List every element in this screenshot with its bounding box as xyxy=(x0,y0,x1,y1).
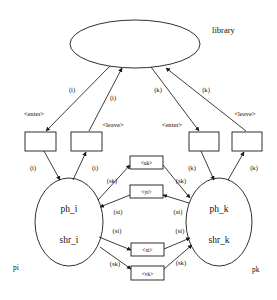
edge-enter-i-to-ph-i xyxy=(44,151,60,180)
edge-ph-k-to-leave-k xyxy=(228,152,244,180)
edge-label-leave-k-library: (k) xyxy=(202,86,210,94)
transition-leave-i[interactable] xyxy=(71,132,102,151)
edge-label-xi-right: (si) xyxy=(176,227,185,235)
transition-leave-k-label: <leave> xyxy=(234,110,256,117)
edge-label-yi-right: (si) xyxy=(174,208,183,216)
edge-xi-to-place-k xyxy=(164,238,190,249)
edge-label-vk-right: (sk) xyxy=(176,259,186,267)
edge-ph-i-to-leave-i xyxy=(73,152,86,180)
node-place-k-top-label: ph_k xyxy=(210,204,229,214)
transition-leave-k[interactable] xyxy=(232,132,262,151)
edge-label-library-enter-k: (k) xyxy=(154,86,162,94)
edge-yi-to-place-i xyxy=(100,195,130,207)
edge-place-k-to-yi xyxy=(163,195,189,203)
diagram-canvas: library (i) (i) (k) (k) <enter> <leave> … xyxy=(0,0,277,300)
channel-box-uk-label: <uk> xyxy=(141,160,152,166)
node-place-k[interactable] xyxy=(186,178,252,266)
node-place-k-bottom-label: shr_k xyxy=(208,235,229,245)
channel-box-yi-label: <yi> xyxy=(141,189,151,195)
transition-enter-k-label: <enter> xyxy=(162,121,183,128)
edge-enter-k-to-ph-k xyxy=(201,151,214,180)
node-place-i[interactable] xyxy=(35,178,103,266)
edge-label-enter-k-ph-k: (k) xyxy=(188,164,196,172)
edge-label-vk-left: (sk) xyxy=(110,260,120,268)
transition-enter-k[interactable] xyxy=(189,132,219,151)
edge-label-enter-i-ph-i: (i) xyxy=(30,164,36,172)
node-place-i-top-label: ph_i xyxy=(61,204,78,214)
transition-leave-i-label: <leave> xyxy=(102,121,124,128)
channel-box-xi-label: <xi> xyxy=(142,247,152,253)
transition-enter-i-label: <enter> xyxy=(24,110,45,117)
edge-label-ph-i-leave-i: (i) xyxy=(92,164,98,172)
edge-label-uk-right: (sk) xyxy=(176,177,186,185)
edge-label-library-enter-i: (i) xyxy=(69,86,75,94)
node-place-i-bottom-label: shr_i xyxy=(60,235,79,245)
transition-enter-i[interactable] xyxy=(25,132,56,151)
petri-net-diagram: library (i) (i) (k) (k) <enter> <leave> … xyxy=(0,0,277,300)
channel-box-vk-label: <vk> xyxy=(142,271,153,277)
edge-label-uk-left: (sk) xyxy=(107,177,117,185)
node-library[interactable] xyxy=(70,20,200,68)
edge-label-xi-left: (si) xyxy=(113,227,122,235)
edge-place-i-to-xi xyxy=(99,237,131,250)
process-label-pi: pi xyxy=(13,263,19,272)
edge-library-to-enter-i xyxy=(46,66,110,131)
process-label-pk: pk xyxy=(252,265,260,274)
edge-label-yi-left: (si) xyxy=(114,208,123,216)
node-library-label: library xyxy=(212,25,236,35)
edge-label-leave-i-library: (i) xyxy=(110,94,116,102)
edge-label-ph-k-leave-k: (k) xyxy=(250,164,258,172)
